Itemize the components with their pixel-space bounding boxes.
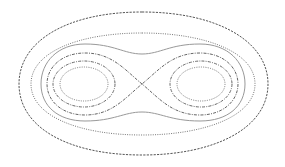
right-lobe-ring-outer — [170, 61, 232, 107]
outer-oval-curve — [19, 12, 268, 155]
contour-svg — [0, 0, 285, 167]
right-lobe-ring-inner — [177, 67, 225, 101]
left-lobe-ring-outer — [53, 61, 115, 107]
contour-diagram — [0, 0, 285, 167]
left-lobe-ring-inner — [60, 67, 108, 101]
